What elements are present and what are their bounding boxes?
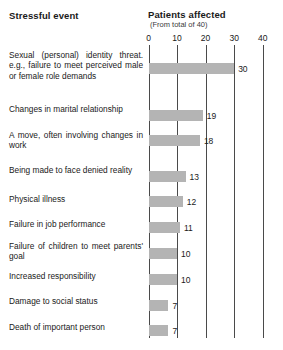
bar [149,222,180,233]
bar [149,63,235,74]
bar [149,248,178,259]
row-label: Failure in job performance [9,219,143,229]
bar-value-label: 12 [187,197,196,207]
bar [149,171,186,182]
bar [149,135,200,146]
bar-value-label: 10 [181,249,190,259]
row-label: Being made to face denied reality [9,165,143,175]
row-label: Increased responsibility [9,271,143,281]
row-label: Sexual (personal) identity threat. e.g.,… [9,50,143,81]
bar-chart-figure: Stressful event Patients affected (From … [0,0,283,350]
bar [149,110,203,121]
row-label: Changes in marital relationship [9,104,143,114]
row-label: Death of important person [9,322,143,332]
bar-value-label: 7 [172,301,177,311]
bar-value-label: 13 [190,172,199,182]
bar-value-label: 30 [238,64,247,74]
row-label: A move, often involving changes in work [9,130,143,151]
bar-value-label: 10 [181,275,190,285]
row-label: Physical illness [9,194,143,204]
row-label: Damage to social status [9,296,143,306]
bar [149,196,183,207]
row-label: Failure of children to meet parents' goa… [9,241,143,262]
bar [149,274,178,285]
bar [149,300,169,311]
bar-rows: Sexual (personal) identity threat. e.g.,… [0,0,283,350]
bar-value-label: 19 [207,111,216,121]
bar-value-label: 11 [184,223,193,233]
bar-value-label: 18 [204,136,213,146]
bar-value-label: 7 [172,326,177,336]
bar [149,325,169,336]
